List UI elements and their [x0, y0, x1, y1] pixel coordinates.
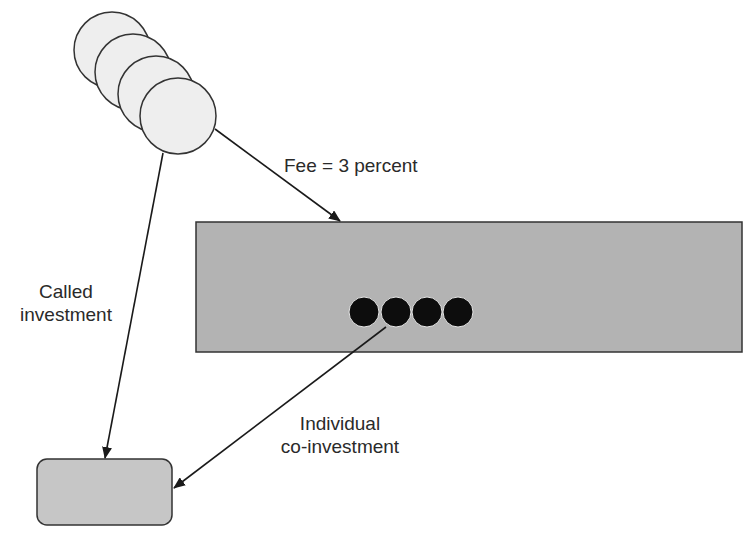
partner-dot-4 [443, 297, 473, 327]
partner-dot-3 [412, 297, 442, 327]
partner-dot-2 [381, 297, 411, 327]
called-investment-label: Called investment [18, 280, 114, 326]
fee-label: Fee = 3 percent [284, 154, 418, 177]
investor-circle-4 [140, 78, 216, 154]
co-investment-label-line1: Individual [270, 412, 410, 435]
investor-circles [74, 12, 216, 154]
partner-dot-1 [349, 297, 379, 327]
portfolio-company-box [37, 459, 172, 525]
fund-box [196, 222, 742, 352]
called-investment-label-line2: investment [18, 303, 114, 326]
called-investment-label-line1: Called [18, 280, 114, 303]
co-investment-label-line2: co-investment [270, 435, 410, 458]
co-investment-label: Individual co-investment [270, 412, 410, 458]
